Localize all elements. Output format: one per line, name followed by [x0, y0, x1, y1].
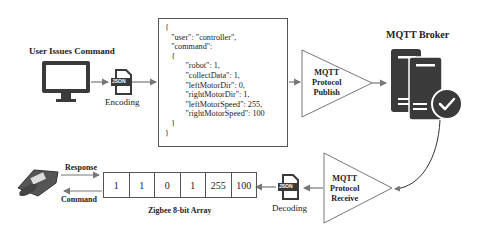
array-cell: 100: [232, 173, 257, 197]
mqtt-receive-label: MQTTProtocolReceive: [330, 174, 359, 204]
zigbee-array: 1 1 0 1 255 100: [103, 172, 257, 198]
json-line: "leftMotorDir": 0,: [165, 81, 281, 91]
json-line: "user": "controller",: [165, 33, 281, 43]
json-line: "rightMotorDir": 1,: [165, 90, 281, 100]
json-line: "rightMotorSpeed": 100: [165, 109, 281, 119]
array-cell: 1: [130, 173, 156, 197]
json-line: }: [165, 129, 281, 139]
json-line: "leftMotorSpeed": 255,: [165, 100, 281, 110]
json-line: {: [165, 52, 281, 62]
json-line: {: [165, 23, 281, 33]
json-line: "collectData": 1,: [165, 71, 281, 81]
array-cell: 1: [104, 173, 130, 197]
json-badge-decode: JSON: [279, 183, 293, 189]
user-issues-command-label: User Issues Command: [29, 46, 115, 56]
mqtt-publish-label: MQTTProtocolPublish: [312, 68, 341, 98]
json-line: "robot": 1,: [165, 61, 281, 71]
array-cell: 255: [206, 173, 232, 197]
check-circle-icon: [432, 89, 462, 119]
array-cell: 0: [155, 173, 181, 197]
json-payload-box: { "user": "controller", "command": { "ro…: [158, 18, 288, 147]
command-label: Command: [61, 195, 97, 204]
array-cell: 1: [181, 173, 207, 197]
json-line: "command":: [165, 42, 281, 52]
json-badge-encode: JSON: [112, 78, 126, 84]
response-label: Response: [65, 163, 97, 172]
decoding-label: Decoding: [272, 203, 307, 213]
encoding-label: Encoding: [105, 97, 140, 107]
mqtt-broker-label: MQTT Broker: [386, 29, 449, 40]
zigbee-array-label: Zigbee 8-bit Array: [148, 206, 212, 215]
json-line: }: [165, 119, 281, 129]
monitor-icon: [42, 61, 90, 102]
robot-icon: [17, 170, 58, 198]
